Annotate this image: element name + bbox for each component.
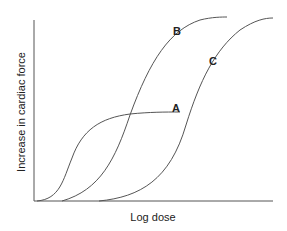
curve-c — [99, 18, 273, 201]
x-axis-label: Log dose — [130, 211, 175, 223]
label-a: A — [172, 102, 180, 114]
y-axis-label: Increase in cardiac force — [15, 52, 27, 172]
curve-a — [37, 112, 180, 201]
curve-b — [62, 17, 227, 201]
dose-response-chart: A B C Log dose Increase in cardiac force — [0, 0, 287, 231]
label-c: C — [209, 55, 217, 67]
label-b: B — [173, 25, 181, 37]
